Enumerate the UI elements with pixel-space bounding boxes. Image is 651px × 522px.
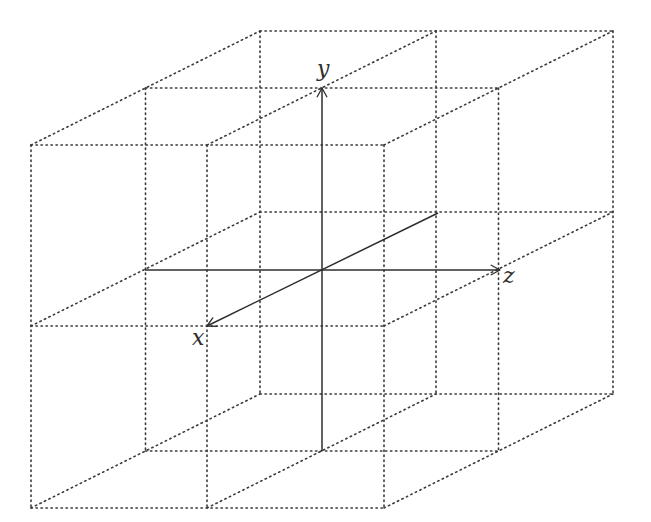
z-axis-label: z: [502, 263, 515, 288]
coordinate-diagram: x y z: [0, 0, 651, 522]
grid-depth-line: [384, 394, 613, 508]
x-axis-label: x: [192, 325, 205, 350]
coordinate-axes: x y z: [145, 56, 515, 451]
y-axis-label: y: [316, 56, 330, 81]
